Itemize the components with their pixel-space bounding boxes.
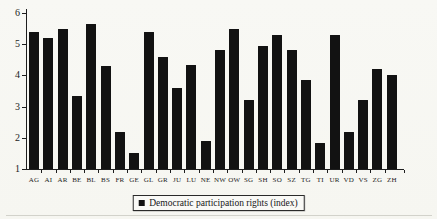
x-axis-tick (284, 170, 285, 173)
y-axis-tick-label: 1 (6, 164, 20, 174)
x-axis-end-tick (404, 170, 405, 173)
x-axis-tick (213, 170, 214, 173)
bar-LU (186, 65, 196, 170)
bar-VS (358, 100, 368, 169)
bar-chart-figure: 123456AGAIARBEBLBSFRGEGLGRJULUNENWOWSGSH… (0, 0, 437, 219)
x-axis-tick (113, 170, 114, 173)
bar-SG (244, 100, 254, 169)
y-axis (26, 9, 27, 170)
y-axis-tick (22, 44, 26, 45)
x-axis-tick (227, 170, 228, 173)
bar-BL (86, 24, 96, 169)
x-axis-tick (156, 170, 157, 173)
y-axis-tick-label: 4 (6, 70, 20, 80)
x-axis-tick (327, 170, 328, 173)
bar-TI (315, 143, 325, 170)
y-axis-tick-label: 5 (6, 39, 20, 49)
y-axis-tick (22, 75, 26, 76)
y-axis-tick (22, 138, 26, 139)
bar-GE (129, 153, 139, 169)
bar-ZH (387, 75, 397, 169)
legend: Democratic participation rights (index) (132, 195, 305, 211)
y-axis-tick-label: 3 (6, 102, 20, 112)
y-axis-tick-label: 2 (6, 133, 20, 143)
legend-label: Democratic participation rights (index) (149, 198, 298, 208)
x-axis-tick (299, 170, 300, 173)
bar-SO (272, 35, 282, 169)
x-axis-tick (342, 170, 343, 173)
x-axis-tick (141, 170, 142, 173)
bar-OW (229, 29, 239, 169)
bar-UR (330, 35, 340, 169)
bar-AR (58, 29, 68, 169)
x-axis-tick (170, 170, 171, 173)
bar-NW (215, 50, 225, 169)
scan-artifact-line (6, 215, 432, 216)
bar-GL (144, 32, 154, 169)
bar-NE (201, 141, 211, 169)
bar-VD (344, 132, 354, 169)
x-axis-tick (184, 170, 185, 173)
x-axis-tick (385, 170, 386, 173)
x-axis-tick (70, 170, 71, 173)
legend-square-marker-icon (138, 200, 144, 206)
x-axis (26, 169, 404, 170)
bar-TG (301, 80, 311, 169)
x-axis-label-ZH: ZH (384, 176, 400, 184)
y-axis-tick (22, 107, 26, 108)
bar-BS (101, 66, 111, 169)
y-axis-tick (22, 13, 26, 14)
bar-BE (72, 96, 82, 169)
x-axis-tick (56, 170, 57, 173)
x-axis-tick (41, 170, 42, 173)
bar-GR (158, 57, 168, 169)
x-axis-tick (256, 170, 257, 173)
y-axis-tick (22, 169, 26, 170)
x-axis-tick (98, 170, 99, 173)
x-axis-tick (313, 170, 314, 173)
bar-AG (29, 32, 39, 169)
bar-SZ (287, 50, 297, 169)
x-axis-tick (127, 170, 128, 173)
bar-JU (172, 88, 182, 169)
bar-SH (258, 46, 268, 169)
bar-AI (43, 38, 53, 169)
x-axis-tick (370, 170, 371, 173)
y-axis-tick-label: 6 (6, 8, 20, 18)
x-axis-tick (270, 170, 271, 173)
bar-FR (115, 132, 125, 169)
x-axis-tick (199, 170, 200, 173)
plot-area: 123456AGAIARBEBLBSFRGEGLGRJULUNENWOWSGSH… (0, 0, 437, 219)
x-axis-tick (356, 170, 357, 173)
x-axis-tick (242, 170, 243, 173)
x-axis-tick (84, 170, 85, 173)
bar-ZG (372, 69, 382, 169)
